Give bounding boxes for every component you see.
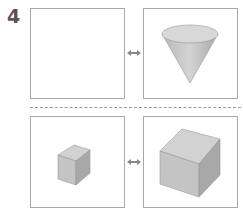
answer-box-empty[interactable]: [30, 8, 125, 99]
large-cube-icon: [144, 117, 237, 207]
small-cube-box: [30, 116, 125, 208]
small-cube-icon: [31, 117, 124, 207]
cone-box: [143, 8, 238, 99]
divider-line: [30, 107, 241, 108]
double-arrow-icon: [127, 50, 141, 56]
cone-icon: [144, 9, 237, 98]
large-cube-box: [143, 116, 238, 208]
problem-number: 4: [7, 5, 20, 27]
double-arrow-icon: [127, 159, 141, 165]
